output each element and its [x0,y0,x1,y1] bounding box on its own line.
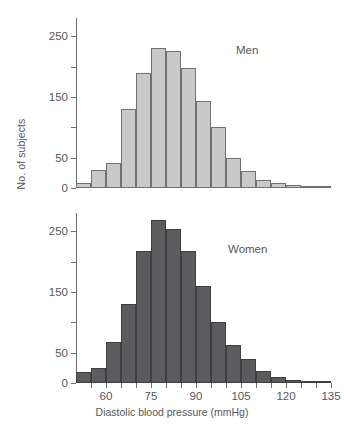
y-tick [71,158,76,159]
bars-men [76,18,331,188]
y-tick-minor [71,262,76,263]
bar [181,68,196,188]
y-tick-label: 250 [49,30,68,42]
bar [136,73,151,188]
bar [91,368,106,383]
x-tick [271,383,272,388]
bar [166,229,181,383]
x-tick-label: 90 [190,390,203,402]
x-tick [151,383,152,388]
bar [181,251,196,383]
bar [91,170,106,188]
x-axis-ticks: 607590105120135 [76,383,331,407]
x-tick [316,383,317,388]
x-tick [226,383,227,388]
bar [136,251,151,383]
y-tick-minor [71,127,76,128]
y-tick-label: 150 [49,286,68,298]
bar [166,51,181,188]
bar [226,158,241,188]
bar [106,342,121,383]
x-tick [211,383,212,388]
bar [256,180,271,189]
bars-women [76,213,331,383]
plot-area-men: 250150500 [76,18,331,188]
panel-women: 250150500 [0,205,344,380]
x-tick [121,383,122,388]
y-tick [71,188,76,189]
y-tick-label: 250 [49,225,68,237]
bar [301,186,316,188]
x-tick-label: 120 [276,390,295,402]
x-tick [241,383,242,388]
x-tick [91,383,92,388]
y-tick-minor [71,322,76,323]
y-tick-label: 50 [55,152,68,164]
bar [256,371,271,383]
x-tick [136,383,137,388]
plot-area-women: 250150500 [76,213,331,383]
bar [211,127,226,188]
y-tick [71,292,76,293]
bar [196,101,211,188]
bar [316,186,331,188]
bar [226,345,241,383]
bar [121,109,136,188]
y-tick-label: 50 [55,347,68,359]
bar [241,359,256,383]
y-tick-label: 0 [62,182,68,194]
y-tick-label: 0 [62,377,68,389]
x-tick-label: 60 [100,390,113,402]
x-tick [196,383,197,388]
x-tick [166,383,167,388]
bar [106,163,121,189]
x-tick [256,383,257,388]
bar [151,220,166,383]
bar [76,372,91,383]
y-tick [71,36,76,37]
panel-men: 250150500 [0,6,344,202]
x-axis-title: Diastolic blood pressure (mmHg) [0,406,344,418]
bar [241,171,256,188]
series-label-men: Men [236,44,258,56]
x-tick [181,383,182,388]
y-tick [71,97,76,98]
bar [286,185,301,188]
x-tick-label: 105 [231,390,250,402]
histogram-figure: No. of subjects 250150500 Men 250150500 … [0,0,344,432]
x-tick-label: 135 [321,390,340,402]
bar [76,183,91,188]
x-tick [331,383,332,388]
y-tick [71,231,76,232]
bar [196,286,211,383]
x-tick [286,383,287,388]
y-tick-minor [71,67,76,68]
bar [211,322,226,383]
y-tick-label: 150 [49,91,68,103]
bar [151,48,166,188]
x-tick-label: 75 [145,390,158,402]
series-label-women: Women [228,243,267,255]
bar [121,304,136,383]
bar [271,183,286,188]
x-tick [301,383,302,388]
y-tick [71,353,76,354]
x-tick [106,383,107,388]
